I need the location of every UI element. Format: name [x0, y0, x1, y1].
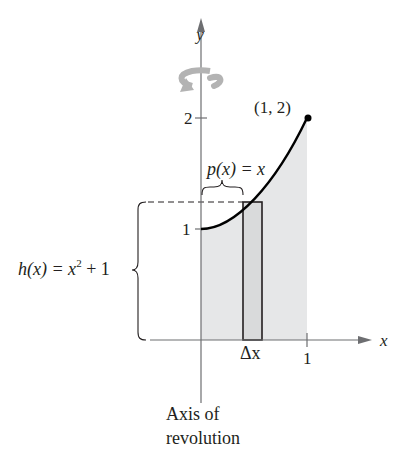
endpoint-dot — [305, 115, 312, 122]
endpoint-label: (1, 2) — [254, 98, 291, 117]
x-axis-label: x — [379, 331, 388, 350]
shell-method-diagram: y x 2 1 1 (1, 2) p(x) = x h(x) = x2 + 1 … — [0, 0, 412, 460]
h-label-suffix: + 1 — [82, 259, 110, 279]
rotation-arrow-icon — [180, 70, 220, 92]
delta-x-label: Δx — [240, 343, 261, 363]
y-axis-label: y — [194, 25, 204, 44]
p-label: p(x) = x — [205, 159, 265, 180]
h-brace — [132, 202, 146, 340]
representative-rectangle — [243, 202, 262, 340]
axis-of-revolution-line1: Axis of — [166, 404, 220, 424]
y-tick-label-2: 2 — [184, 109, 193, 128]
h-label-main: h(x) = x — [18, 259, 76, 280]
p-brace — [202, 180, 243, 195]
x-tick-label-1: 1 — [303, 349, 312, 368]
x-axis-arrow-icon — [358, 336, 372, 344]
y-tick-label-1: 1 — [182, 220, 191, 239]
h-label: h(x) = x2 + 1 — [18, 257, 110, 280]
axis-of-revolution-line2: revolution — [166, 428, 240, 448]
